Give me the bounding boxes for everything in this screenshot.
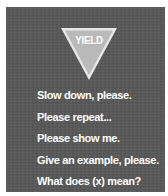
phrase-give-example: Give an example, please. (37, 150, 159, 172)
yield-sign: YIELD (59, 26, 119, 82)
phrase-slow-down: Slow down, please. (37, 85, 159, 107)
classroom-phrases-poster: YIELD Slow down, please. Please repeat..… (6, 7, 165, 192)
phrase-please-repeat: Please repeat... (37, 107, 159, 129)
phrase-list: Slow down, please. Please repeat... Plea… (37, 85, 159, 193)
yield-sign-label: YIELD (64, 34, 115, 46)
phrase-show-me: Please show me. (37, 128, 159, 150)
phrase-what-does-mean: What does (x) mean? (37, 171, 159, 193)
